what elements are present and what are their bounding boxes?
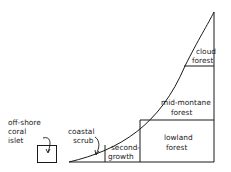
- coastal-scrub-label-1: coastal: [68, 127, 94, 136]
- second-growth-label-1: second-: [111, 143, 140, 152]
- cloud-forest-label-1: cloud: [196, 47, 216, 56]
- vegetation-zonation-diagram: cloud forest mid-montane forest lowland …: [0, 0, 231, 172]
- islet-label-1: off-shore: [8, 118, 41, 127]
- offshore-islet-box: [38, 146, 57, 163]
- cloud-forest-label-2: forest: [192, 56, 213, 65]
- islet-label-2: coral: [8, 127, 26, 136]
- lowland-label-2: forest: [166, 143, 187, 152]
- mid-montane-label-2: forest: [171, 108, 192, 117]
- second-growth-label-2: growth: [108, 152, 134, 161]
- mid-montane-label-1: mid-montane: [161, 98, 211, 107]
- islet-label-3: islet: [8, 136, 24, 145]
- coastal-scrub-label-2: scrub: [73, 136, 94, 145]
- lowland-label-1: lowland: [164, 133, 193, 142]
